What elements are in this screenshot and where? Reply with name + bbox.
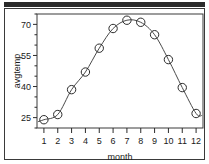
- x-tick-label: 11: [178, 136, 187, 146]
- x-axis-ticks: [44, 128, 196, 133]
- x-tick-label: 10: [163, 136, 173, 146]
- plot-area: [37, 14, 203, 128]
- y-tick-label: 55: [21, 51, 31, 61]
- y-axis-label: avgtemp: [12, 54, 22, 89]
- x-tick-label: 5: [97, 136, 102, 146]
- y-axis-ticks: [33, 14, 37, 128]
- x-tick-label: 4: [83, 136, 88, 146]
- x-axis-tick-labels: 123456789101112: [41, 136, 201, 146]
- x-tick-label: 3: [69, 136, 74, 146]
- x-tick-label: 1: [41, 136, 46, 146]
- x-tick-label: 6: [111, 136, 116, 146]
- x-tick-label: 8: [138, 136, 143, 146]
- y-axis-tick-labels: 25405570: [21, 20, 31, 123]
- chart-figure: 25405570 123456789101112 month avgtemp: [0, 0, 209, 164]
- x-tick-label: 2: [55, 136, 60, 146]
- y-tick-label: 40: [21, 82, 31, 92]
- x-tick-label: 12: [191, 136, 201, 146]
- scatter-plot: 25405570 123456789101112 month avgtemp: [0, 0, 209, 164]
- plot-border: [37, 14, 203, 128]
- y-tick-label: 70: [21, 20, 31, 30]
- x-tick-label: 7: [124, 136, 129, 146]
- x-tick-label: 9: [152, 136, 157, 146]
- y-tick-label: 25: [21, 113, 31, 123]
- x-axis-label: month: [107, 152, 132, 162]
